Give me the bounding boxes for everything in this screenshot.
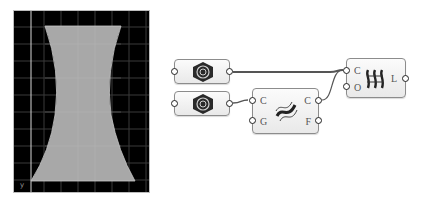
input-port[interactable] <box>171 100 178 107</box>
input-port-c[interactable] <box>343 67 350 74</box>
grasshopper-canvas[interactable]: C G C F C O L <box>0 0 423 201</box>
output-port-f[interactable] <box>315 117 322 124</box>
input-port-c[interactable] <box>249 97 256 104</box>
output-port[interactable] <box>226 100 233 107</box>
output-port-l[interactable] <box>402 75 409 82</box>
output-label-l: L <box>391 74 397 84</box>
loft-component[interactable]: C O L <box>346 58 406 98</box>
input-label-c: C <box>354 66 361 76</box>
input-port-o[interactable] <box>343 83 350 90</box>
offset-curve-icon <box>274 100 298 122</box>
output-label-f: F <box>305 117 311 127</box>
output-label-c: C <box>304 96 311 106</box>
offset-component[interactable]: C G C F <box>252 88 319 134</box>
input-label-o: O <box>354 83 361 93</box>
input-label-c: C <box>260 96 267 106</box>
curve-param-node-2[interactable] <box>174 91 230 116</box>
output-port-c[interactable] <box>315 97 322 104</box>
input-port[interactable] <box>171 68 178 75</box>
output-port[interactable] <box>226 68 233 75</box>
curve-param-icon <box>191 93 215 115</box>
loft-icon <box>364 68 386 90</box>
curve-param-node-1[interactable] <box>174 59 230 84</box>
input-label-g: G <box>260 117 267 127</box>
input-port-g[interactable] <box>249 117 256 124</box>
curve-param-icon <box>191 61 215 83</box>
